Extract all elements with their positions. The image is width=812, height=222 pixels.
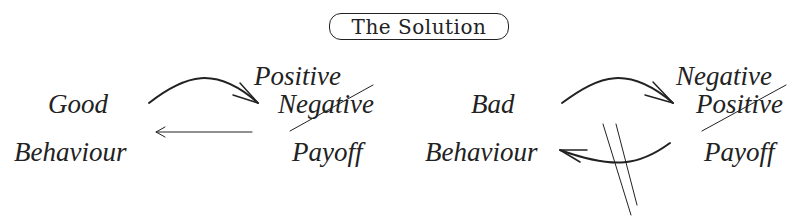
right-strike-line — [702, 85, 786, 131]
block-slash-left-icon — [603, 124, 631, 215]
left-forward-arrow — [149, 78, 258, 103]
right-forward-arrow — [562, 78, 673, 103]
left-strike-line — [290, 85, 373, 131]
right-return-arrowhead-icon — [560, 150, 587, 162]
solution-diagram: The Solution Good Behaviour Positive Neg… — [0, 0, 812, 222]
block-slash-right-icon — [616, 124, 637, 205]
diagram-arrows — [0, 0, 812, 222]
